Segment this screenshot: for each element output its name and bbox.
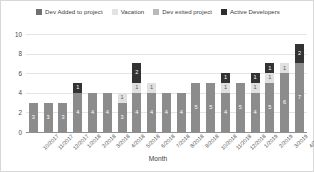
bar-segment: 1 <box>251 73 260 83</box>
bar-column[interactable]: 4 <box>177 34 186 132</box>
x-axis-tick-label: 4/2018 <box>130 133 146 149</box>
bar-value-label: 1 <box>268 75 271 81</box>
legend-label-dev-added: Dev Added to project <box>45 8 103 15</box>
bar-value-label: 1 <box>121 95 124 101</box>
bar-column[interactable]: 27 <box>295 34 304 132</box>
y-axis-tick-label: 6 <box>4 70 22 77</box>
legend-item-dev-added[interactable]: Dev Added to project <box>36 8 103 15</box>
x-axis-tick-label: 2/2018 <box>100 133 116 149</box>
x-axis-tick-label: 7/2018 <box>174 133 190 149</box>
legend-swatch-dev-added <box>36 9 42 15</box>
x-axis-tick-label: 10/2018 <box>220 133 238 151</box>
bar-column[interactable]: 214 <box>132 34 141 132</box>
x-axis-tick-label: 11/2017 <box>57 133 75 151</box>
bar-column[interactable]: 3 <box>44 34 53 132</box>
y-axis-tick-label: 8 <box>4 50 22 57</box>
legend-label-dev-exited: Dev exited project <box>162 8 212 15</box>
bar-column[interactable]: 14 <box>73 34 82 132</box>
bar-column[interactable]: 4 <box>88 34 97 132</box>
legend-label-vacation: Vacation <box>121 8 145 15</box>
bar-column[interactable]: 5 <box>191 34 200 132</box>
bar-column[interactable]: 5 <box>236 34 245 132</box>
x-axis-tick-label: 3/2019 <box>293 133 309 149</box>
legend-swatch-dev-exited <box>153 9 159 15</box>
bar-value-label: 5 <box>209 105 212 111</box>
x-axis-tick-label: 5/2018 <box>145 133 161 149</box>
bar-column[interactable]: 14 <box>147 34 156 132</box>
bar-segment: 4 <box>251 93 260 132</box>
bar-value-label: 3 <box>121 115 124 121</box>
x-axis-tick-label: 6/2018 <box>160 133 176 149</box>
bar-segment: 3 <box>58 103 67 132</box>
x-axis-tick-label: 2/2019 <box>278 133 294 149</box>
bar-value-label: 2 <box>135 70 138 76</box>
bar-value-label: 7 <box>298 95 301 101</box>
bar-value-label: 3 <box>61 115 64 121</box>
y-axis-tick-label: 0 <box>4 129 22 136</box>
x-axis-tick-label: 8/2018 <box>189 133 205 149</box>
bars-container: 33314441321414445511451141151627 <box>26 34 307 132</box>
bar-column[interactable]: 13 <box>118 34 127 132</box>
y-axis-tick-label: 4 <box>4 89 22 96</box>
bar-column[interactable]: 115 <box>265 34 274 132</box>
bar-value-label: 4 <box>135 110 138 116</box>
bar-value-label: 4 <box>165 110 168 116</box>
bar-value-label: 5 <box>239 105 242 111</box>
bar-segment: 4 <box>221 93 230 132</box>
bar-segment: 1 <box>73 83 82 93</box>
bar-value-label: 4 <box>224 110 227 116</box>
bar-column[interactable]: 114 <box>221 34 230 132</box>
bar-value-label: 4 <box>254 110 257 116</box>
x-axis-title: Month <box>1 155 314 162</box>
bar-segment: 1 <box>251 83 260 93</box>
bar-segment: 5 <box>236 83 245 132</box>
bar-segment: 4 <box>177 93 186 132</box>
bar-segment: 4 <box>132 93 141 132</box>
bar-segment: 1 <box>265 73 274 83</box>
bar-segment: 5 <box>206 83 215 132</box>
bar-value-label: 5 <box>194 105 197 111</box>
bar-segment: 4 <box>88 93 97 132</box>
bar-segment: 1 <box>118 93 127 103</box>
legend-swatch-vacation <box>112 9 118 15</box>
bar-column[interactable]: 4 <box>162 34 171 132</box>
bar-value-label: 5 <box>268 105 271 111</box>
bar-segment: 1 <box>147 83 156 93</box>
bar-segment: 1 <box>280 63 289 73</box>
bar-value-label: 4 <box>91 110 94 116</box>
bar-chart: Dev Added to project Vacation Dev exited… <box>0 0 314 172</box>
chart-legend: Dev Added to project Vacation Dev exited… <box>1 8 314 15</box>
bar-column[interactable]: 3 <box>29 34 38 132</box>
bar-segment: 4 <box>103 93 112 132</box>
y-axis-tick-label: 2 <box>4 109 22 116</box>
bar-segment: 1 <box>132 83 141 93</box>
legend-item-vacation[interactable]: Vacation <box>112 8 145 15</box>
bar-column[interactable]: 16 <box>280 34 289 132</box>
bar-segment: 4 <box>147 93 156 132</box>
bar-segment: 1 <box>221 83 230 93</box>
legend-swatch-active-developers <box>221 9 227 15</box>
bar-value-label: 1 <box>283 66 286 72</box>
bar-value-label: 4 <box>76 110 79 116</box>
bar-value-label: 1 <box>254 85 257 91</box>
bar-value-label: 3 <box>32 115 35 121</box>
bar-segment: 3 <box>118 103 127 132</box>
bar-column[interactable]: 5 <box>206 34 215 132</box>
bar-segment: 7 <box>295 63 304 132</box>
bar-column[interactable]: 3 <box>58 34 67 132</box>
x-axis-tick-label: 4/2019 <box>307 133 314 149</box>
bar-column[interactable]: 4 <box>103 34 112 132</box>
bar-segment: 1 <box>265 63 274 73</box>
bar-segment: 4 <box>162 93 171 132</box>
bar-segment: 2 <box>295 44 304 64</box>
bar-value-label: 4 <box>150 110 153 116</box>
legend-item-dev-exited[interactable]: Dev exited project <box>153 8 212 15</box>
bar-value-label: 1 <box>135 85 138 91</box>
bar-value-label: 1 <box>268 66 271 72</box>
bar-value-label: 4 <box>106 110 109 116</box>
bar-value-label: 1 <box>150 85 153 91</box>
bar-column[interactable]: 114 <box>251 34 260 132</box>
legend-item-active-developers[interactable]: Active Developers <box>221 8 280 15</box>
bar-segment: 3 <box>29 103 38 132</box>
x-axis-tick-label: 3/2018 <box>115 133 131 149</box>
